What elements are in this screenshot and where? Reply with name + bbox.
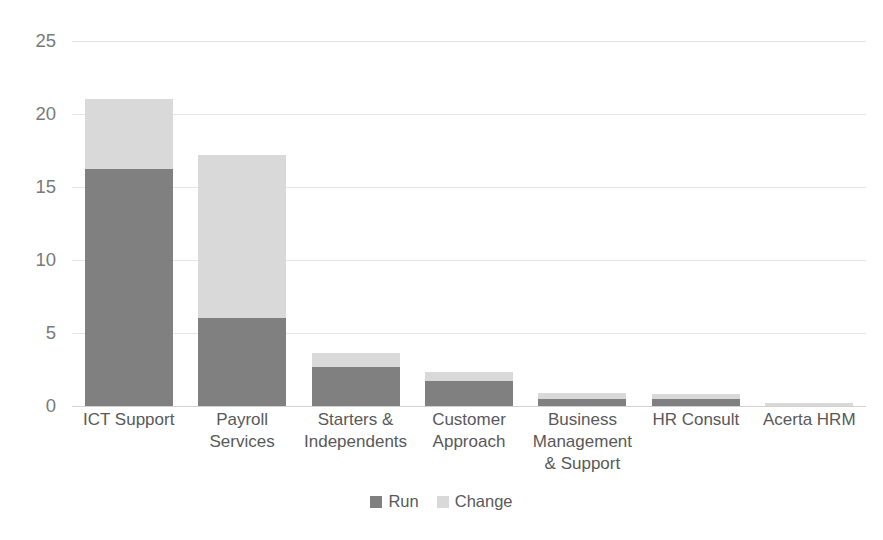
- x-tick-label: HR Consult: [639, 409, 752, 431]
- x-tick-label: Business Management & Support: [526, 409, 639, 475]
- plot-area: [72, 41, 866, 406]
- bar-group[interactable]: [312, 41, 400, 406]
- gridline-0: [72, 406, 866, 407]
- bar-segment-change[interactable]: [538, 393, 626, 399]
- bar-segment-run[interactable]: [198, 318, 286, 406]
- bar-group[interactable]: [652, 41, 740, 406]
- chart-legend: RunChange: [0, 492, 883, 511]
- y-tick-label: 10: [0, 249, 56, 271]
- legend-label: Run: [388, 492, 418, 511]
- x-tick-label: Acerta HRM: [753, 409, 866, 431]
- bar-group[interactable]: [198, 41, 286, 406]
- bar-segment-change[interactable]: [765, 403, 853, 406]
- legend-item-change[interactable]: Change: [437, 492, 513, 511]
- bar-segment-run[interactable]: [312, 367, 400, 406]
- y-tick-label: 0: [0, 395, 56, 417]
- y-tick-label: 25: [0, 30, 56, 52]
- bar-group[interactable]: [538, 41, 626, 406]
- x-tick-label: Customer Approach: [412, 409, 525, 453]
- legend-swatch-icon: [370, 496, 382, 508]
- y-tick-label: 5: [0, 322, 56, 344]
- bar-segment-change[interactable]: [85, 99, 173, 169]
- x-axis: ICT SupportPayroll ServicesStarters & In…: [72, 409, 866, 487]
- y-tick-label: 20: [0, 103, 56, 125]
- bar-segment-change[interactable]: [425, 372, 513, 381]
- stacked-bar-chart: 0510152025 ICT SupportPayroll ServicesSt…: [0, 0, 883, 540]
- y-tick-label: 15: [0, 176, 56, 198]
- bar-segment-change[interactable]: [652, 394, 740, 400]
- bar-segment-change[interactable]: [198, 155, 286, 319]
- x-tick-label: ICT Support: [72, 409, 185, 431]
- bar-segment-run[interactable]: [85, 169, 173, 406]
- bar-group[interactable]: [425, 41, 513, 406]
- bar-group[interactable]: [765, 41, 853, 406]
- bar-segment-run[interactable]: [538, 399, 626, 406]
- legend-swatch-icon: [437, 496, 449, 508]
- legend-item-run[interactable]: Run: [370, 492, 418, 511]
- bar-segment-run[interactable]: [652, 399, 740, 406]
- y-axis: 0510152025: [0, 41, 60, 406]
- legend-label: Change: [455, 492, 513, 511]
- bar-segment-change[interactable]: [312, 353, 400, 366]
- x-tick-label: Payroll Services: [185, 409, 298, 453]
- bar-segment-run[interactable]: [425, 381, 513, 406]
- bar-group[interactable]: [85, 41, 173, 406]
- x-tick-label: Starters & Independents: [299, 409, 412, 453]
